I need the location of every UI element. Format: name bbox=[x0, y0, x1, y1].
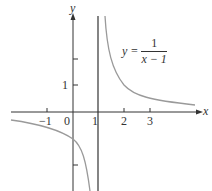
plot-area bbox=[0, 0, 212, 191]
equation-lhs: y = bbox=[122, 44, 138, 59]
equation-denominator: x − 1 bbox=[141, 53, 166, 66]
y-axis-label: y bbox=[70, 2, 75, 14]
x-axis-arrow-icon bbox=[196, 110, 203, 115]
y-tick-label: 1 bbox=[62, 79, 68, 91]
x-tick-label: −1 bbox=[39, 115, 52, 127]
x-tick-label: 2 bbox=[121, 115, 127, 127]
x-axis-label: x bbox=[203, 105, 208, 117]
curve-left-branch bbox=[11, 120, 90, 191]
x-tick-label: 3 bbox=[147, 115, 153, 127]
x-tick-label: 0 bbox=[64, 115, 70, 127]
x-tick-label: 1 bbox=[92, 115, 98, 127]
chart: y x −1 0 1 2 3 1 y = 1 x − 1 bbox=[0, 0, 212, 191]
equation-numerator: 1 bbox=[141, 37, 166, 50]
equation-label: y = 1 x − 1 bbox=[122, 37, 167, 66]
